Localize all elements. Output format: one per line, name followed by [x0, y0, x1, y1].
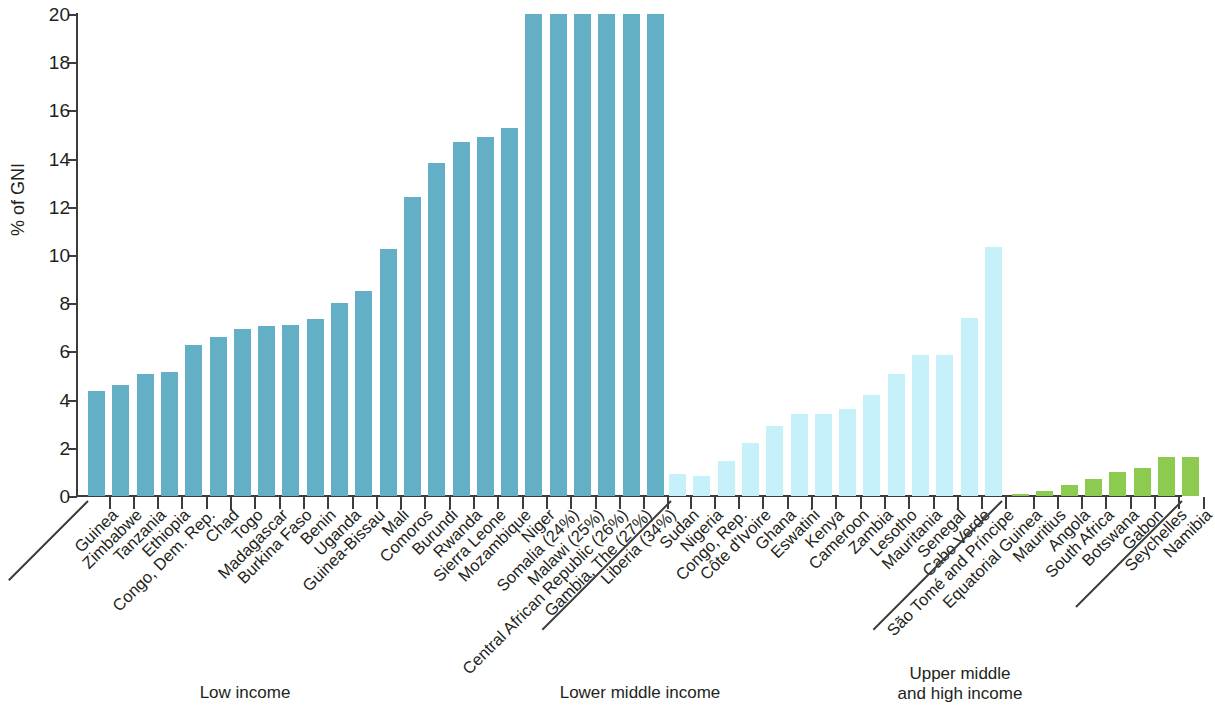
bar [477, 137, 494, 496]
bar [307, 319, 324, 496]
bar [936, 355, 953, 496]
bar [791, 414, 808, 496]
y-tick-label: 6 [59, 342, 70, 361]
bar [598, 14, 615, 496]
bar [1109, 472, 1126, 496]
bar [331, 303, 348, 496]
y-tick-label: 2 [59, 438, 70, 457]
y-tick-label: 10 [49, 246, 70, 265]
group-label: Upper middle and high income [830, 664, 1090, 704]
bar [693, 476, 710, 496]
bar [453, 142, 470, 496]
bar [766, 426, 783, 496]
bar [1061, 485, 1078, 496]
bar [501, 128, 518, 496]
y-tick-label: 18 [49, 53, 70, 72]
bar [742, 443, 759, 496]
bar [815, 414, 832, 496]
bar [839, 409, 856, 496]
bar [961, 318, 978, 496]
bar [210, 337, 227, 496]
group-label: Low income [130, 683, 360, 703]
group-label: Lower middle income [490, 683, 790, 703]
bar [380, 249, 397, 496]
y-tick-label: 4 [59, 390, 70, 409]
bar [428, 163, 445, 496]
y-tick-label: 8 [59, 294, 70, 313]
bar [355, 291, 372, 496]
plot-area: 02468101214161820 [77, 14, 1182, 496]
bar [863, 395, 880, 496]
bar [525, 14, 542, 496]
y-tick-label: 12 [49, 197, 70, 216]
bar [1012, 494, 1029, 496]
y-axis-title: % of GNI [8, 163, 29, 236]
bar [550, 14, 567, 496]
bar [647, 14, 664, 496]
bar [258, 326, 275, 496]
bar [912, 355, 929, 496]
y-tick-label: 0 [59, 487, 70, 506]
y-tick-label: 14 [49, 149, 70, 168]
bar [1134, 468, 1151, 496]
bar [574, 14, 591, 496]
bar [1182, 457, 1199, 496]
bar [669, 474, 686, 496]
bar [282, 325, 299, 496]
bar [1036, 491, 1053, 496]
bar [888, 374, 905, 496]
bar [88, 391, 105, 496]
bar [161, 372, 178, 496]
y-tick-label: 20 [49, 5, 70, 24]
bar [234, 329, 251, 496]
bar [623, 14, 640, 496]
bar [404, 197, 421, 496]
bar [137, 374, 154, 496]
bar [718, 461, 735, 496]
y-tick-label: 16 [49, 101, 70, 120]
bar [1158, 457, 1175, 496]
bar [112, 385, 129, 496]
bar [985, 247, 1002, 496]
bar [1085, 479, 1102, 496]
bar [185, 345, 202, 496]
